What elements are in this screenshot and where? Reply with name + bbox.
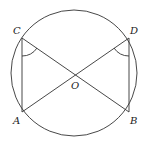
angle-mark-d	[114, 48, 129, 56]
angle-mark-c	[22, 48, 37, 56]
label-d: D	[129, 25, 138, 36]
label-c: C	[13, 25, 21, 36]
label-b: B	[129, 115, 137, 126]
circle	[11, 10, 137, 136]
geometry-diagram: C D A B O	[0, 0, 147, 144]
label-a: A	[12, 115, 20, 126]
label-o: O	[71, 80, 79, 91]
